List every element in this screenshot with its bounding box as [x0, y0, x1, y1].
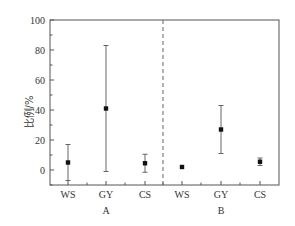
y-tick-label: 20 [35, 135, 45, 146]
y-tick-label: 40 [35, 105, 45, 116]
data-point [66, 145, 71, 181]
y-tick-label: 60 [35, 75, 45, 86]
data-point [180, 165, 184, 169]
square-marker-icon [180, 165, 184, 169]
data-point [143, 154, 148, 172]
data-point [219, 106, 224, 154]
y-tick-label: 0 [40, 165, 45, 176]
y-tick-label: 80 [35, 45, 45, 56]
square-marker-icon [219, 127, 223, 131]
data-point [104, 46, 109, 172]
square-marker-icon [104, 106, 108, 110]
data-point [258, 158, 263, 166]
square-marker-icon [66, 160, 70, 164]
group-label-b: B [218, 205, 225, 216]
x-tick-label: CS [139, 189, 151, 200]
x-tick-label: GY [214, 189, 228, 200]
data-series [66, 46, 263, 181]
square-marker-icon [143, 161, 147, 165]
x-tick-label: WS [175, 189, 190, 200]
x-tick-label: WS [61, 189, 76, 200]
plot-frame [50, 20, 279, 185]
y-axis-label: 比例/% [23, 96, 35, 129]
x-tick-label: GY [99, 189, 113, 200]
square-marker-icon [258, 160, 262, 164]
y-tick-label: 100 [30, 15, 45, 26]
chart: 020406080100 WSGYCSWSGYCS 比例/% A B [0, 0, 295, 226]
group-label-a: A [102, 205, 110, 216]
x-tick-label: CS [254, 189, 266, 200]
